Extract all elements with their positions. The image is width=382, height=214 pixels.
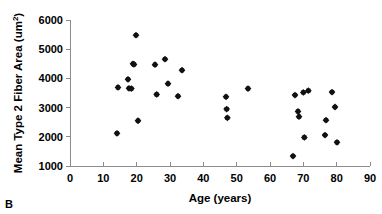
panel-label: B	[5, 198, 13, 210]
data-point-core	[129, 87, 133, 91]
data-point-core	[134, 33, 138, 37]
data-point-core	[302, 135, 306, 139]
y-axis-title: Mean Type 2 Fiber Area (um2)	[11, 13, 24, 174]
data-point-core	[301, 90, 305, 94]
y-tick-label-5000: 5000	[39, 43, 63, 55]
x-axis-ticks	[70, 162, 370, 166]
x-tick-label-80: 80	[331, 172, 343, 184]
data-point-core	[333, 105, 337, 109]
x-tick-label-60: 60	[264, 172, 276, 184]
data-point-core	[297, 115, 301, 119]
data-point-core	[293, 93, 297, 97]
x-tick-label-70: 70	[297, 172, 309, 184]
y-tick-label-3000: 3000	[39, 102, 63, 114]
data-point-core	[136, 119, 140, 123]
data-point-core	[132, 62, 136, 66]
data-point-core	[166, 82, 170, 86]
data-point-core	[115, 131, 119, 135]
data-point-core	[324, 118, 328, 122]
y-tick-label-6000: 6000	[39, 14, 63, 26]
y-axis-title-close: )	[12, 13, 24, 17]
data-point-core	[225, 116, 229, 120]
data-point-core	[246, 87, 250, 91]
y-axis-ticks	[66, 20, 70, 166]
data-point-core	[163, 57, 167, 61]
data-point-core	[296, 109, 300, 113]
data-point-core	[155, 92, 159, 96]
y-tick-label-1000: 1000	[39, 160, 63, 172]
y-axis-title-main: Mean Type 2 Fiber Area (um	[12, 21, 24, 173]
x-tick-label-0: 0	[67, 172, 73, 184]
data-point-core	[291, 154, 295, 158]
data-point-core	[335, 140, 339, 144]
x-tick-label-40: 40	[197, 172, 209, 184]
x-tick-label-90: 90	[364, 172, 376, 184]
x-tick-label-10: 10	[97, 172, 109, 184]
data-point-core	[180, 68, 184, 72]
data-point-core	[153, 63, 157, 67]
x-tick-label-20: 20	[131, 172, 143, 184]
y-axis-tick-labels: 100020003000400050006000	[39, 14, 63, 172]
data-point-core	[306, 89, 310, 93]
data-point-core	[225, 107, 229, 111]
x-tick-label-50: 50	[231, 172, 243, 184]
figure-panel-b: 100020003000400050006000 010203040506070…	[0, 0, 382, 214]
data-point-core	[330, 90, 334, 94]
x-axis-title: Age (years)	[189, 192, 252, 204]
data-point-core	[176, 94, 180, 98]
scatter-plot: 100020003000400050006000 010203040506070…	[0, 0, 382, 214]
data-point-core	[224, 95, 228, 99]
data-point-core	[323, 133, 327, 137]
y-tick-label-4000: 4000	[39, 72, 63, 84]
data-markers	[114, 32, 341, 160]
x-axis-tick-labels: 0102030405060708090	[67, 172, 376, 184]
data-point-core	[116, 85, 120, 89]
y-tick-label-2000: 2000	[39, 131, 63, 143]
x-tick-label-30: 30	[164, 172, 176, 184]
data-point-core	[126, 77, 130, 81]
